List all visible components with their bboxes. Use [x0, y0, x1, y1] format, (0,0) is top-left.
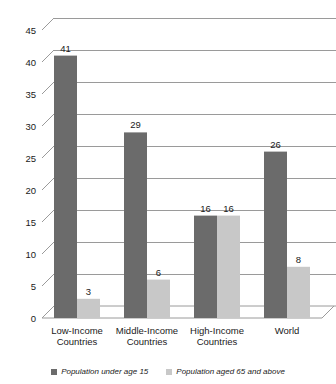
legend-swatch-icon	[166, 369, 172, 375]
bar	[217, 216, 240, 318]
bar	[194, 216, 217, 318]
y-axis-tick-label: 15	[25, 217, 36, 228]
bar-value-label: 6	[156, 267, 161, 278]
chart-plot-area: 051015202530354045 4132961616268 Low-Inc…	[0, 0, 336, 360]
legend-label: Population aged 65 and above	[176, 368, 285, 376]
legend-item[interactable]: Population aged 65 and above	[166, 368, 285, 376]
chart-legend: Population under age 15Population aged 6…	[0, 362, 336, 382]
x-axis-category-labels: Low-IncomeCountriesMiddle-IncomeCountrie…	[51, 325, 299, 347]
bar-value-label: 16	[200, 203, 211, 214]
bar-value-label: 26	[270, 139, 281, 150]
y-axis-tick-label: 45	[25, 25, 36, 36]
bar-value-label: 41	[60, 43, 71, 54]
bars	[54, 56, 310, 318]
y-axis-tick-label: 25	[25, 153, 36, 164]
y-axis-tick-label: 0	[31, 313, 36, 324]
x-axis-category-label: High-Income	[190, 325, 244, 336]
x-axis-category-label: Low-Income	[51, 325, 103, 336]
bar	[287, 267, 310, 318]
bar-chart: 051015202530354045 4132961616268 Low-Inc…	[0, 0, 336, 384]
bar	[124, 132, 147, 318]
legend-item[interactable]: Population under age 15	[51, 368, 148, 376]
bar	[147, 280, 170, 318]
x-axis-category-label: Countries	[197, 336, 238, 347]
y-axis-tick-label: 20	[25, 185, 36, 196]
bar-value-label: 8	[296, 254, 301, 265]
y-axis-tick-label: 5	[31, 281, 36, 292]
y-axis-tick-label: 10	[25, 249, 36, 260]
x-axis-category-label: Countries	[57, 336, 98, 347]
y-axis-tick-labels: 051015202530354045	[25, 25, 36, 324]
bar-value-label: 16	[223, 203, 234, 214]
y-axis-tick-label: 30	[25, 121, 36, 132]
bar-value-label: 29	[130, 119, 141, 130]
bar	[77, 299, 100, 318]
bar-value-label: 3	[86, 286, 91, 297]
x-axis-category-label: Countries	[127, 336, 168, 347]
y-axis-tick-label: 40	[25, 57, 36, 68]
bar	[264, 152, 287, 318]
bar	[54, 56, 77, 318]
y-axis-tick-label: 35	[25, 89, 36, 100]
axis-tick-connectors	[42, 18, 54, 318]
x-axis-category-label: Middle-Income	[116, 325, 178, 336]
x-axis-category-label: World	[275, 325, 300, 336]
legend-label: Population under age 15	[61, 368, 148, 376]
legend-swatch-icon	[51, 369, 57, 375]
